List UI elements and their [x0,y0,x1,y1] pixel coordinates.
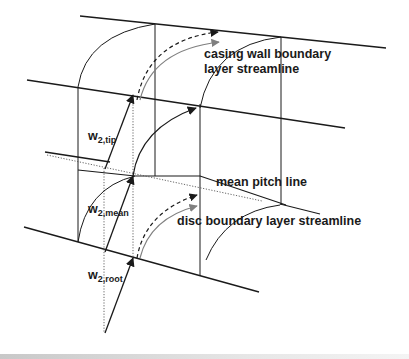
blade-passage-diagram: casing wall boundary layer streamline me… [0,0,409,359]
tip-line [27,80,345,128]
disc-label: disc boundary layer streamline [177,214,361,228]
w-tip-arrow [105,95,133,169]
mean-streamline-arrow [133,108,196,176]
casing-label-line1: casing wall boundary [204,47,331,61]
w-root-label: w2,root [87,268,123,284]
mean-pitch-label: mean pitch line [216,175,307,189]
bottom-edge-bar [0,354,409,359]
disc-bottom-line [24,227,259,292]
w-tip-label: w2,tip [87,129,117,145]
casing-top-line [80,16,386,48]
right-mean-edge [280,204,320,214]
casing-label-line2: layer streamline [204,62,299,76]
w-root-arrow [105,258,133,333]
